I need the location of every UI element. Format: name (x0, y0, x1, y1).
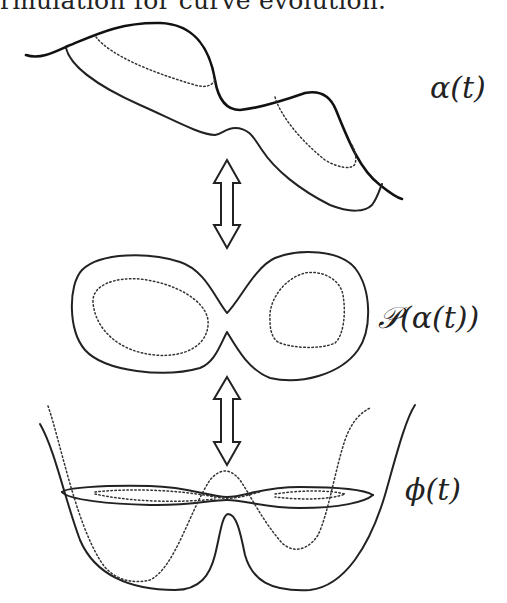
label-projection: 𝒫(α(t)) (378, 300, 479, 336)
double-arrow-1-icon (214, 160, 240, 248)
double-arrow-2-icon (214, 377, 240, 465)
dotted-loop-left (93, 279, 208, 356)
dotted-curve-right (275, 97, 356, 167)
projection-figure (72, 252, 368, 380)
label-alpha-t: α(t) (430, 70, 486, 105)
dotted-curve-left (96, 37, 215, 86)
dotted-loop-right (270, 272, 344, 347)
label-phi-t: ϕ(t) (405, 472, 461, 507)
